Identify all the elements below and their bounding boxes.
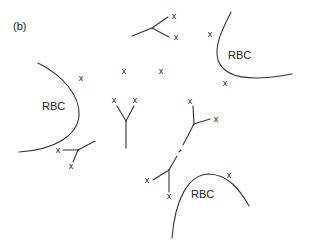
rbc-label-bottom: RBC <box>191 188 214 200</box>
antigen-marker: x <box>188 96 193 106</box>
antigen-marker: x <box>167 191 172 201</box>
diagram-canvas: (b) RBC RBC RBC <box>0 0 312 252</box>
antigen-marker: x <box>214 114 219 124</box>
antigen-marker: x <box>79 73 84 83</box>
antigen-marker: x <box>56 145 61 155</box>
antigen-marker: x <box>172 11 177 21</box>
antigen-marker: x <box>174 32 179 42</box>
antigen-marker: x <box>227 170 232 180</box>
antibody-lower-middle <box>153 156 177 192</box>
rbc-label-left: RBC <box>42 100 65 112</box>
antigen-marker: x <box>159 66 164 76</box>
panel-label: (b) <box>13 20 26 32</box>
antigen-marker: x <box>69 161 74 171</box>
antigen-marker: x <box>223 78 228 88</box>
rbc-label-top-right: RBC <box>228 49 251 61</box>
antigen-marker: x <box>112 95 117 105</box>
antibody-center <box>117 106 134 148</box>
rbc-membrane-top-right <box>217 12 292 78</box>
antibody-top <box>132 17 169 37</box>
antigen-marker: x <box>145 175 150 185</box>
antigen-marker: x <box>122 66 127 76</box>
antibody-left-bottom <box>63 141 95 162</box>
antigen-marker: x <box>133 95 138 105</box>
antibody-right-middle <box>179 106 210 152</box>
diagram-panel-b: (b) RBC RBC RBC <box>0 0 312 252</box>
rbc-membrane-bottom <box>172 174 249 238</box>
antigen-marker: x <box>208 29 213 39</box>
